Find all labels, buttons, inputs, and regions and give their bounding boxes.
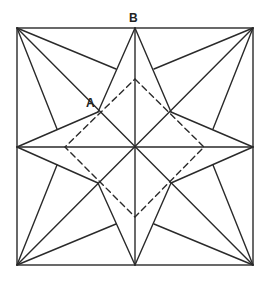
label-a: A	[86, 97, 95, 109]
label-b: B	[129, 12, 138, 24]
star-fold-diagram	[0, 0, 267, 285]
